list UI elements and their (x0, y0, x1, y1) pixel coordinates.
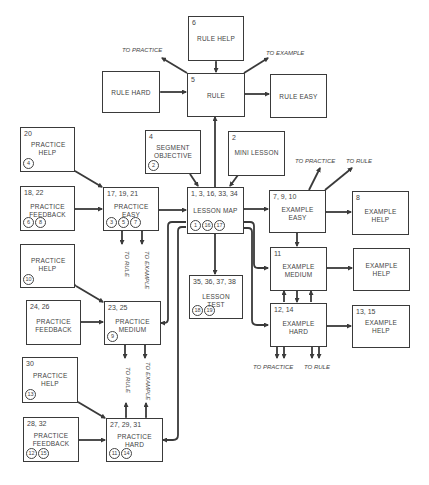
box-practice-hard[interactable]: 27, 29, 31 PRACTICE HARD 11 14 (106, 418, 163, 462)
circle-list: 10 (23, 274, 34, 285)
box-number: 7, 9, 10 (273, 193, 296, 200)
box-practice-medium[interactable]: 23, 25 PRACTICE MEDIUM 9 (104, 301, 161, 345)
step-circle: 10 (23, 274, 34, 285)
box-mini-lesson[interactable]: 2 MINI LESSON (228, 131, 285, 176)
circle-list: 11 14 (109, 448, 132, 459)
box-number: 23, 25 (108, 304, 127, 311)
step-circle: 15 (38, 448, 49, 459)
box-label: EXAMPLE EASY (280, 206, 315, 222)
circle-list: 9 (107, 331, 118, 342)
box-label: EXAMPLE HELP (363, 208, 398, 224)
step-circle: 6 (23, 217, 34, 228)
box-practice-easy[interactable]: 17, 19, 21 PRACTICE EASY 3 5 7 (103, 187, 159, 231)
box-example-help-2[interactable]: EXAMPLE HELP (353, 248, 410, 291)
circle-list: 1 16 17 (190, 220, 225, 231)
step-circle: 4 (23, 158, 34, 169)
box-example-help-3[interactable]: 13, 15 EXAMPLE HELP (352, 305, 410, 348)
circle-list: 4 (23, 158, 34, 169)
box-label: PRACTICE HARD (117, 433, 152, 449)
box-label: EXAMPLE HELP (363, 319, 399, 335)
box-number: 4 (149, 133, 153, 140)
note-practice-hard-to-example: TO EXAMPLE (145, 362, 151, 400)
box-label: PRACTICE HELP (31, 141, 64, 157)
step-circle: 9 (107, 331, 118, 342)
box-practice-help-2[interactable]: PRACTICE HELP 10 (20, 244, 75, 288)
note-example-easy-to-practice: TO PRACTICE (295, 158, 335, 164)
step-circle: 19 (204, 305, 215, 316)
box-example-easy[interactable]: 7, 9, 10 EXAMPLE EASY (269, 190, 326, 233)
box-number: 11 (274, 250, 281, 257)
box-rule-easy[interactable]: RULE EASY (270, 74, 327, 118)
box-label: RULE EASY (271, 93, 326, 101)
circle-list: 2 (148, 160, 159, 171)
box-lesson-map[interactable]: 1, 3, 16, 33, 34 LESSON MAP 1 16 17 (187, 187, 244, 234)
step-circle: 11 (109, 448, 120, 459)
circle-list: 3 5 7 (106, 217, 141, 228)
box-label: RULE HARD (103, 89, 159, 97)
circle-list: 12 15 (26, 448, 49, 459)
box-number: 2 (232, 134, 236, 141)
box-number: 8 (356, 194, 360, 201)
box-rule[interactable]: 5 RULE (187, 73, 245, 117)
circle-list: 13 (25, 389, 36, 400)
box-label: MINI LESSON (229, 149, 284, 157)
box-number: 1, 3, 16, 33, 34 (191, 190, 238, 197)
box-number: 6 (192, 19, 196, 26)
box-rule-help[interactable]: 6 RULE HELP (188, 16, 244, 61)
step-circle: 13 (25, 389, 36, 400)
box-label: EXAMPLE HELP (364, 262, 399, 278)
box-lesson-test[interactable]: 35, 36, 37, 38 LESSON TEST 18 19 (189, 275, 243, 319)
box-practice-feedback-1[interactable]: 18, 22 PRACTICE FEEDBACK 6 8 (20, 186, 75, 231)
box-label: PRACTICE FEEDBACK (35, 318, 72, 334)
box-practice-help-1[interactable]: 20 PRACTICE HELP 4 (20, 127, 75, 172)
box-label: SEGMENT OBJECTIVE (154, 144, 192, 160)
step-circle: 1 (190, 220, 201, 231)
box-number: 35, 36, 37, 38 (193, 278, 236, 285)
box-number: 30 (26, 360, 34, 367)
box-number: 12, 14 (274, 306, 293, 313)
step-circle: 8 (35, 217, 46, 228)
box-label: PRACTICE FEEDBACK (32, 432, 70, 448)
box-number: 5 (191, 76, 195, 83)
box-practice-feedback-3[interactable]: 28, 32 PRACTICE FEEDBACK 12 15 (23, 417, 79, 462)
step-circle: 7 (130, 217, 141, 228)
step-circle: 5 (118, 217, 129, 228)
box-label: RULE (188, 92, 244, 100)
box-number: 20 (24, 130, 32, 137)
box-example-hard[interactable]: 12, 14 EXAMPLE HARD (270, 303, 327, 347)
note-rule-to-example: TO EXAMPLE (266, 50, 304, 56)
box-label: EXAMPLE HARD (281, 320, 316, 336)
box-label: LESSON MAP (188, 207, 243, 215)
step-circle: 2 (148, 160, 159, 171)
box-label: PRACTICE HELP (33, 372, 67, 388)
box-number: 28, 32 (27, 420, 46, 427)
box-number: 17, 19, 21 (107, 190, 138, 197)
step-circle: 17 (214, 220, 225, 231)
box-example-help-1[interactable]: 8 EXAMPLE HELP (352, 191, 409, 235)
box-label: EXAMPLE MEDIUM (279, 263, 318, 279)
box-segment-objective[interactable]: 4 SEGMENT OBJECTIVE 2 (145, 130, 201, 174)
circle-list: 6 8 (23, 217, 46, 228)
note-rule-to-practice: TO PRACTICE (122, 47, 162, 53)
box-rule-hard[interactable]: RULE HARD (102, 71, 160, 113)
note-practice-easy-to-example: TO EXAMPLE (144, 251, 150, 289)
box-label: PRACTICE HELP (31, 257, 64, 273)
box-practice-help-3[interactable]: 30 PRACTICE HELP 13 (22, 357, 78, 403)
box-practice-feedback-2[interactable]: 24, 26 PRACTICE FEEDBACK (26, 300, 81, 345)
step-circle: 18 (192, 305, 203, 316)
box-number: 27, 29, 31 (110, 421, 141, 428)
note-example-hard-to-rule: TO RULE (304, 364, 330, 370)
note-example-hard-to-practice: TO PRACTICE (253, 364, 293, 370)
step-circle: 3 (106, 217, 117, 228)
note-practice-hard-to-rule: TO RULE (125, 367, 131, 393)
box-label: RULE HELP (189, 35, 243, 43)
box-number: 13, 15 (356, 308, 375, 315)
box-example-medium[interactable]: 11 EXAMPLE MEDIUM (270, 247, 327, 291)
note-example-easy-to-rule: TO RULE (346, 158, 372, 164)
circle-list: 18 19 (192, 305, 215, 316)
step-circle: 16 (202, 220, 213, 231)
step-circle: 12 (26, 448, 37, 459)
box-number: 24, 26 (30, 303, 49, 310)
note-practice-easy-to-rule: TO RULE (124, 251, 130, 277)
box-number: 18, 22 (24, 189, 43, 196)
